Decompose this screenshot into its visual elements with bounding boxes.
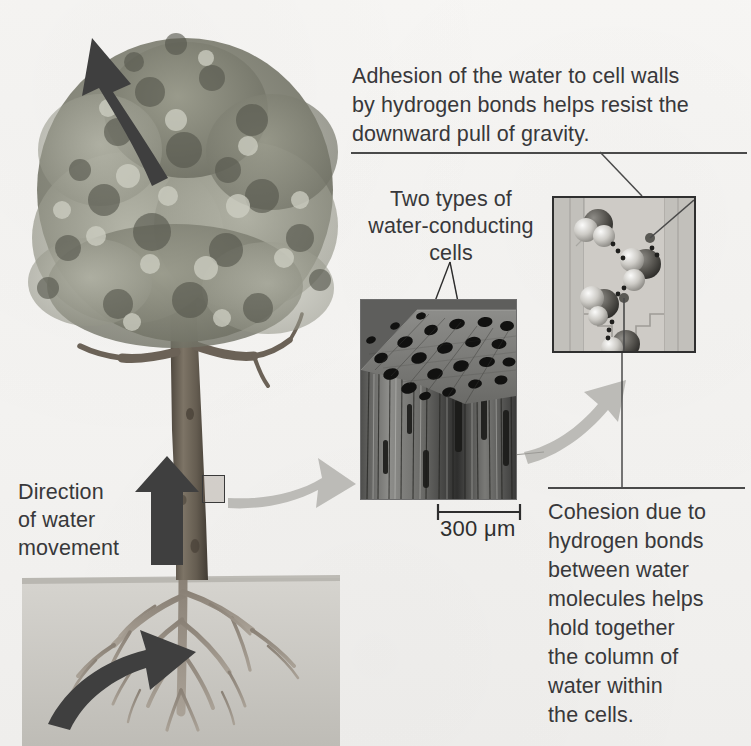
zoom-arrow-molecular	[524, 380, 626, 464]
cohesion-divider-rule	[548, 487, 745, 489]
adhesion-leader-line	[600, 152, 642, 196]
two-types-annotation: Two types of water-conducting cells	[356, 186, 546, 267]
tree-canopy	[28, 33, 338, 348]
molecular-content	[554, 198, 694, 351]
micrograph-content	[361, 300, 516, 499]
adhesion-divider-rule	[351, 152, 747, 154]
cohesion-annotation: Cohesion due to hydrogen bonds between w…	[548, 498, 748, 730]
root-system	[72, 578, 298, 730]
wood-sem-micrograph	[360, 299, 517, 500]
scale-bar-label: 300 μm	[440, 516, 516, 542]
water-molecule-chain	[552, 196, 696, 353]
micrograph-callout-leader	[513, 452, 544, 455]
root-uptake-arrow	[48, 630, 196, 730]
trunk-callout-box	[202, 475, 225, 503]
transpiration-arrow	[82, 38, 168, 186]
direction-of-water-movement-label: Direction of water movement	[18, 478, 148, 562]
zoom-arrow-micrograph	[228, 458, 356, 508]
soil-layer	[22, 575, 340, 746]
water-transport-figure: Adhesion of the water to cell walls by h…	[0, 0, 751, 746]
adhesion-annotation: Adhesion of the water to cell walls by h…	[352, 62, 744, 149]
